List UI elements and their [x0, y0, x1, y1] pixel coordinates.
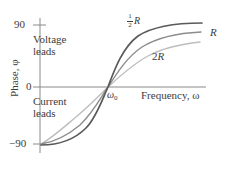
chart-plot-area — [0, 0, 227, 172]
two-r-variable: R — [158, 50, 165, 62]
y-tick-label-minus-90: −90 — [9, 137, 26, 149]
curve-label-2r: 2R — [152, 50, 164, 62]
half-fraction: 1 2 — [127, 13, 133, 29]
half-r-variable: R — [134, 15, 140, 26]
y-axis-title: Phase, φ — [8, 47, 20, 109]
y-tick-label-0: 0 — [26, 80, 32, 92]
current-leads-line-2: leads — [33, 107, 56, 119]
phase-frequency-chart: 90 0 −90 Phase, φ Frequency, ω Voltage l… — [0, 0, 227, 172]
omega-symbol: ω — [107, 89, 114, 100]
omega-subscript: 0 — [114, 94, 118, 102]
voltage-leads-annotation: Voltage leads — [33, 33, 66, 58]
voltage-leads-line-1: Voltage — [33, 33, 66, 45]
y-tick-label-90: 90 — [14, 18, 25, 30]
voltage-leads-line-2: leads — [33, 45, 56, 57]
half-fraction-numerator: 1 — [127, 13, 133, 20]
resonance-frequency-label: ω0 — [107, 89, 118, 103]
curve-label-r: R — [210, 26, 217, 38]
current-leads-annotation: Current leads — [33, 95, 67, 120]
current-leads-line-1: Current — [33, 95, 67, 107]
half-fraction-denominator: 2 — [127, 22, 133, 29]
curve-label-half-r: 1 2 R — [127, 13, 140, 29]
x-axis-title: Frequency, ω — [141, 89, 199, 101]
